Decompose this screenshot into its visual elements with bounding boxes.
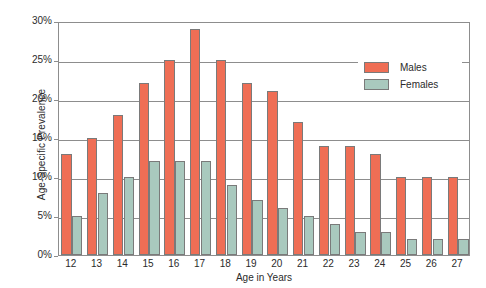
bar-females-age-13	[98, 193, 108, 255]
bar-males-age-26	[422, 177, 432, 255]
y-tick-label: 15%	[32, 132, 52, 143]
bar-males-age-22	[319, 146, 329, 255]
bar-chart: Age-Specific Prevalence 0%5%10%15%20%25%…	[0, 0, 486, 288]
x-tick-label-25: 25	[392, 258, 420, 269]
x-tick-label-21: 21	[289, 258, 317, 269]
bar-males-age-27	[448, 177, 458, 255]
y-tick: 25%	[0, 61, 58, 62]
legend-item-males: Males	[364, 59, 456, 76]
x-tick-label-15: 15	[134, 258, 162, 269]
bar-females-age-25	[407, 239, 417, 255]
chart-legend: MalesFemales	[358, 54, 462, 98]
bar-females-age-22	[330, 224, 340, 255]
bar-males-age-12	[61, 154, 71, 255]
x-tick-label-17: 17	[186, 258, 214, 269]
y-tick-label: 25%	[32, 54, 52, 65]
bar-males-age-18	[216, 60, 226, 255]
y-tick-label: 10%	[32, 171, 52, 182]
y-tick-label: 5%	[38, 210, 52, 221]
x-tick-label-19: 19	[237, 258, 265, 269]
x-tick-label-23: 23	[340, 258, 368, 269]
x-tick-label-27: 27	[443, 258, 471, 269]
bar-males-age-25	[396, 177, 406, 255]
x-tick-label-13: 13	[83, 258, 111, 269]
bar-males-age-24	[370, 154, 380, 255]
legend-item-females: Females	[364, 76, 456, 93]
x-tick-label-14: 14	[108, 258, 136, 269]
y-tick-mark	[54, 256, 58, 257]
bar-males-age-14	[113, 115, 123, 255]
y-tick: 20%	[0, 100, 58, 101]
legend-swatch-males	[364, 62, 389, 73]
bar-males-age-23	[345, 146, 355, 255]
x-tick-label-22: 22	[314, 258, 342, 269]
bar-males-age-17	[190, 29, 200, 255]
bar-females-age-18	[227, 185, 237, 255]
y-tick: 15%	[0, 139, 58, 140]
y-tick: 30%	[0, 22, 58, 23]
bar-males-age-21	[293, 122, 303, 255]
bar-males-age-20	[267, 91, 277, 255]
x-tick-label-24: 24	[366, 258, 394, 269]
bar-males-age-15	[139, 83, 149, 255]
bar-females-age-14	[124, 177, 134, 255]
y-tick: 10%	[0, 178, 58, 179]
bar-females-age-23	[355, 232, 365, 255]
x-tick-label-18: 18	[211, 258, 239, 269]
x-tick-label-20: 20	[263, 258, 291, 269]
y-tick: 5%	[0, 217, 58, 218]
y-tick: 0%	[0, 256, 58, 257]
bar-females-age-21	[304, 216, 314, 255]
bar-females-age-20	[278, 208, 288, 255]
bar-females-age-26	[433, 239, 443, 255]
y-tick-label: 30%	[32, 15, 52, 26]
x-axis-title: Age in Years	[58, 272, 470, 283]
bar-males-age-19	[242, 83, 252, 255]
legend-swatch-females	[364, 79, 389, 90]
bar-females-age-19	[252, 200, 262, 255]
x-tick-label-26: 26	[417, 258, 445, 269]
bar-females-age-15	[149, 161, 159, 255]
x-tick-label-16: 16	[160, 258, 188, 269]
bar-females-age-16	[175, 161, 185, 255]
y-tick-label: 0%	[38, 249, 52, 260]
y-tick-label: 20%	[32, 93, 52, 104]
bar-females-age-27	[458, 239, 468, 255]
bar-females-age-17	[201, 161, 211, 255]
bar-females-age-12	[72, 216, 82, 255]
bar-males-age-13	[87, 138, 97, 255]
legend-label-females: Females	[400, 79, 438, 90]
bar-females-age-24	[381, 232, 391, 255]
x-tick-label-12: 12	[57, 258, 85, 269]
legend-label-males: Males	[400, 62, 427, 73]
bar-males-age-16	[164, 60, 174, 255]
